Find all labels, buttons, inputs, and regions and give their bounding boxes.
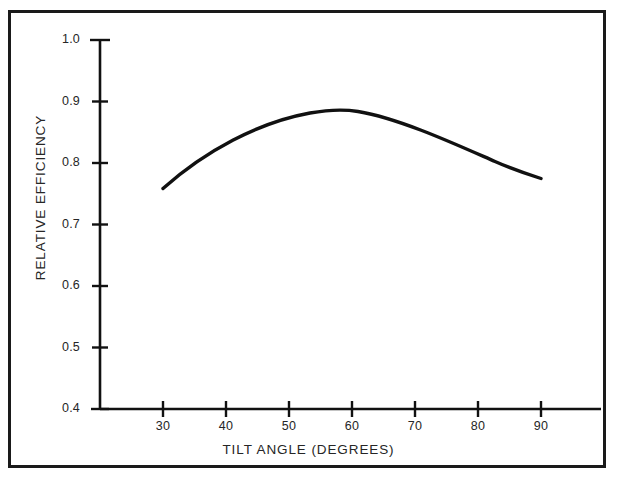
- y-tick-label-0.6: 0.6: [44, 278, 80, 292]
- axes-group: [100, 40, 601, 409]
- x-tick-label-60: 60: [332, 419, 372, 433]
- x-tick-label-70: 70: [395, 419, 435, 433]
- x-tick-label-80: 80: [458, 419, 498, 433]
- chart-plot-area: [0, 0, 617, 481]
- x-tick-label-30: 30: [143, 419, 183, 433]
- x-axis-title: TILT ANGLE (DEGREES): [0, 442, 617, 457]
- y-tick-label-0.9: 0.9: [44, 94, 80, 108]
- x-tick-label-90: 90: [521, 419, 561, 433]
- y-tick-label-0.7: 0.7: [44, 217, 80, 231]
- x-tick-label-50: 50: [269, 419, 309, 433]
- data-series-line: [163, 110, 541, 188]
- figure-container: 1.0 0.9 0.8 0.7 0.6 0.5 0.4 30 40 50 60 …: [0, 0, 617, 481]
- y-tick-label-0.8: 0.8: [44, 155, 80, 169]
- y-axis-title: RELATIVE EFFICIENCY: [33, 68, 48, 328]
- y-tick-label-0.4: 0.4: [44, 401, 80, 415]
- y-tick-label-1.0: 1.0: [44, 32, 80, 46]
- y-tick-label-0.5: 0.5: [44, 340, 80, 354]
- x-tick-label-40: 40: [206, 419, 246, 433]
